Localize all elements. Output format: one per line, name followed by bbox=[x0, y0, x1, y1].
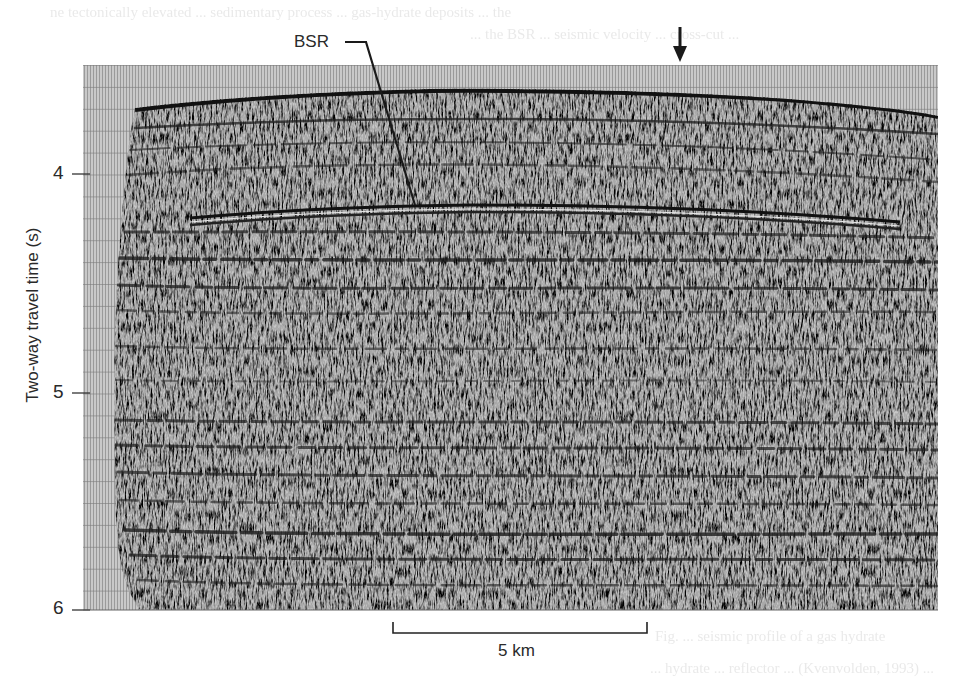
y-tick-label-5: 5 bbox=[53, 381, 64, 403]
bsr-annotation-label: BSR bbox=[294, 32, 329, 52]
seismic-plot bbox=[0, 0, 961, 685]
scale-bar-label: 5 km bbox=[498, 641, 535, 661]
down-arrow-icon bbox=[673, 27, 687, 62]
seismic-figure: ne tectonically elevated ... sedimentary… bbox=[0, 0, 961, 685]
y-tick-label-4: 4 bbox=[53, 162, 64, 184]
y-tick-label-6: 6 bbox=[53, 597, 64, 619]
y-axis-label: Two-way travel time (s) bbox=[23, 220, 43, 410]
scale-bar bbox=[393, 622, 647, 633]
seismic-data bbox=[83, 65, 938, 610]
